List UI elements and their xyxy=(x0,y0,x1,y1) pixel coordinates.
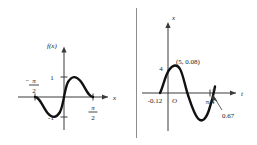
right-tick-label-neg012: -0.12 xyxy=(148,97,163,105)
sine-curve-plot: f(x) x 1 -1 π − 2 π 2 xyxy=(0,0,136,145)
svg-text:π: π xyxy=(32,77,36,85)
svg-text:2: 2 xyxy=(91,114,95,122)
right-ytick-label-4: 4 xyxy=(159,65,163,73)
svg-text:π: π xyxy=(91,104,95,112)
damped-oscillation-plot: x t 4 O -0.12 π/4 (5, 0.08) 0.67 xyxy=(136,0,257,145)
right-callout-annotation: 0.67 xyxy=(222,112,235,120)
left-plot-svg: f(x) x 1 -1 π − 2 π 2 xyxy=(0,0,136,145)
left-xlabel: x xyxy=(112,94,117,102)
left-ylabel: f(x) xyxy=(47,42,57,50)
right-origin-label: O xyxy=(172,97,177,105)
left-ytick-label-neg1: -1 xyxy=(48,114,54,122)
right-ylabel: x xyxy=(171,14,176,22)
svg-text:−: − xyxy=(26,77,30,85)
right-plot-svg: x t 4 O -0.12 π/4 (5, 0.08) 0.67 xyxy=(136,0,257,145)
svg-text:2: 2 xyxy=(32,87,36,95)
left-ytick-label-1: 1 xyxy=(50,74,54,82)
right-tick-label-pi-over-4: π/4 xyxy=(206,98,215,106)
left-xtick-label-neg-pi-over-2: π − 2 xyxy=(26,77,39,95)
right-peak-annotation: (5, 0.08) xyxy=(176,58,201,66)
figure-container: f(x) x 1 -1 π − 2 π 2 xyxy=(0,0,257,145)
left-xtick-label-pi-over-2: π 2 xyxy=(89,104,98,122)
right-xlabel: t xyxy=(241,90,244,98)
